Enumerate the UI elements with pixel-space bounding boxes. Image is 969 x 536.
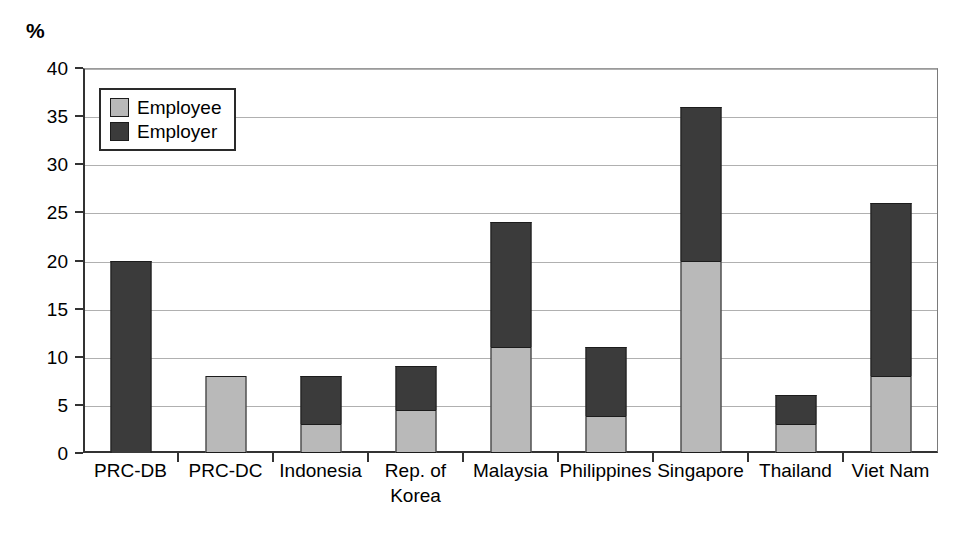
- bar-stack[interactable]: [585, 347, 626, 453]
- bar-group[interactable]: [653, 68, 748, 453]
- bar-group[interactable]: [558, 68, 653, 453]
- bar-segment-employee[interactable]: [775, 424, 816, 453]
- legend-item-employee: Employee: [110, 95, 222, 119]
- legend-item-employer: Employer: [110, 119, 222, 143]
- y-axis-tick: [75, 67, 83, 69]
- bar-segment-employer[interactable]: [110, 261, 151, 454]
- bar-stack[interactable]: [680, 107, 721, 454]
- bar-segment-employee[interactable]: [205, 376, 246, 453]
- bar-segment-employer[interactable]: [300, 376, 341, 424]
- legend-label-employee: Employee: [137, 98, 222, 117]
- bar-segment-employee[interactable]: [300, 424, 341, 453]
- bar-stack[interactable]: [870, 203, 911, 453]
- y-axis-tick: [75, 308, 83, 310]
- legend-swatch-employee-icon: [110, 98, 129, 117]
- bar-segment-employee[interactable]: [870, 376, 911, 453]
- bar-stack[interactable]: [110, 261, 151, 454]
- bar-group[interactable]: [843, 68, 938, 453]
- y-axis-tick-label: 10: [26, 347, 68, 366]
- bar-segment-employee[interactable]: [395, 410, 436, 453]
- bar-segment-employer[interactable]: [680, 107, 721, 261]
- chart-legend: Employee Employer: [99, 88, 236, 151]
- y-axis-tick-label: 35: [26, 107, 68, 126]
- bar-stack[interactable]: [205, 376, 246, 453]
- y-axis-tick: [75, 260, 83, 262]
- y-axis-labels: 0510152025303540: [0, 0, 68, 536]
- y-axis-tick: [75, 452, 83, 454]
- y-axis-tick-label: 40: [26, 59, 68, 78]
- bar-group[interactable]: [273, 68, 368, 453]
- bar-group[interactable]: [463, 68, 558, 453]
- y-axis-tick-label: 25: [26, 203, 68, 222]
- y-axis-tick-label: 15: [26, 299, 68, 318]
- bar-stack[interactable]: [395, 366, 436, 453]
- bar-segment-employer[interactable]: [585, 347, 626, 416]
- bar-segment-employee[interactable]: [680, 261, 721, 454]
- bar-segment-employee[interactable]: [490, 347, 531, 453]
- y-axis-tick: [75, 356, 83, 358]
- y-axis-tick: [75, 115, 83, 117]
- stacked-bar-chart-figure: % 0510152025303540 PRC-DBPRC-DCIndonesia…: [0, 0, 969, 536]
- bar-segment-employer[interactable]: [490, 222, 531, 347]
- bar-group[interactable]: [368, 68, 463, 453]
- bar-stack[interactable]: [775, 395, 816, 453]
- legend-swatch-employer-icon: [110, 122, 129, 141]
- y-axis-tick-label: 5: [26, 395, 68, 414]
- x-axis-tick-label: Viet Nam: [831, 458, 950, 483]
- y-axis-tick-label: 20: [26, 251, 68, 270]
- bar-segment-employer[interactable]: [395, 366, 436, 409]
- bar-stack[interactable]: [300, 376, 341, 453]
- bar-group[interactable]: [748, 68, 843, 453]
- bar-stack[interactable]: [490, 222, 531, 453]
- y-axis-tick: [75, 211, 83, 213]
- bar-segment-employer[interactable]: [870, 203, 911, 376]
- y-axis-tick-label: 30: [26, 155, 68, 174]
- x-axis-labels: PRC-DBPRC-DCIndonesiaRep. of KoreaMalays…: [83, 458, 938, 528]
- y-axis-tick-label: 0: [26, 444, 68, 463]
- y-axis-tick: [75, 163, 83, 165]
- y-axis-tick: [75, 404, 83, 406]
- legend-label-employer: Employer: [137, 122, 217, 141]
- bar-segment-employee[interactable]: [585, 416, 626, 453]
- bar-segment-employer[interactable]: [775, 395, 816, 424]
